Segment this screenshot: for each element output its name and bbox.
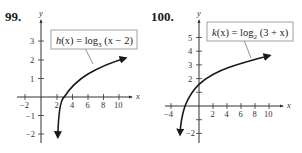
y-tick-label: −2	[26, 129, 35, 139]
y-tick-label: 3	[188, 60, 192, 70]
x-tick-label: 4	[70, 100, 75, 110]
label-leader	[244, 40, 251, 58]
figure-canvas: 99. y x −2 2 4 6 8 10 3 2	[0, 0, 302, 153]
x-tick-label: 6	[239, 109, 243, 119]
x-axis-label: x	[135, 91, 140, 101]
y-tick-label: 4	[188, 46, 193, 56]
y-tick-label: 5	[188, 33, 192, 43]
problem-99: 99. y x −2 2 4 6 8 10 3 2	[5, 8, 140, 143]
x-tick-label: −2	[20, 100, 29, 110]
x-tick-label: −4	[164, 109, 174, 119]
problem-number: 100.	[151, 9, 174, 24]
x-tick-label: 10	[114, 100, 123, 110]
y-axis-label: y	[196, 8, 201, 18]
x-tick-label: 6	[86, 100, 90, 110]
x-tick-label: 4	[225, 109, 230, 119]
problem-number: 99.	[5, 9, 21, 24]
y-tick-label: −1	[26, 111, 35, 121]
x-tick-label: 8	[101, 100, 105, 110]
x-axis-label: x	[286, 100, 291, 110]
label-leader	[85, 48, 93, 64]
function-curve	[58, 58, 126, 138]
y-axis-label: y	[38, 8, 43, 18]
y-tick-label: 3	[30, 36, 34, 46]
y-tick-label: −2	[186, 128, 195, 138]
x-tick-label: 2	[211, 109, 215, 119]
y-tick-label: 1	[30, 74, 34, 84]
x-tick-label: 10	[264, 109, 273, 119]
y-tick-label: 2	[188, 74, 192, 84]
function-curve	[180, 56, 270, 136]
x-tick-label: 2	[55, 100, 59, 110]
problem-100: 100. y x −4 2 4 6 8 10	[151, 8, 293, 143]
x-tick-label: 8	[253, 109, 257, 119]
y-tick-label: 2	[30, 55, 34, 65]
